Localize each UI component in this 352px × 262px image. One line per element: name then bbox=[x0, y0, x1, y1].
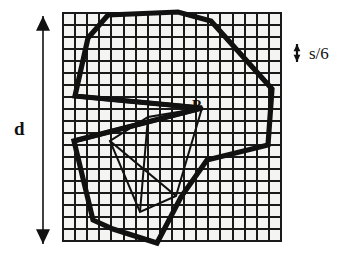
figure-canvas bbox=[0, 0, 352, 262]
point-p-label: P bbox=[192, 97, 201, 114]
dimension-d-label: d bbox=[14, 118, 25, 140]
dimension-s6-label: s/6 bbox=[309, 44, 329, 64]
grid-group bbox=[63, 13, 281, 241]
